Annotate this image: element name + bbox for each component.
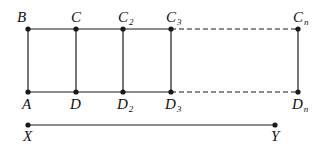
label-D3: D3: [164, 96, 182, 114]
point-Y: [272, 122, 277, 127]
label-C3: C3: [166, 9, 182, 27]
label-Y: Y: [271, 128, 281, 144]
label-C2: C2: [118, 9, 134, 27]
label-D: D: [69, 96, 81, 112]
label-Cn: Cn: [293, 9, 309, 27]
diagram-points: [25, 26, 300, 127]
diagram-svg: BCC2C3CnADD2D3DnXY: [0, 0, 324, 146]
point-C: [73, 26, 78, 31]
point-C2: [120, 26, 125, 31]
point-D: [73, 89, 78, 94]
label-D2: D2: [116, 96, 134, 114]
point-D3: [168, 89, 173, 94]
diagram-lines: [28, 29, 298, 125]
rectangle-sequence-diagram: BCC2C3CnADD2D3DnXY: [0, 0, 324, 146]
point-C3: [168, 26, 173, 31]
label-A: A: [21, 96, 32, 112]
point-B: [25, 26, 30, 31]
label-X: X: [22, 128, 33, 144]
point-X: [25, 122, 30, 127]
point-Dn: [295, 89, 300, 94]
label-B: B: [17, 9, 26, 25]
point-D2: [120, 89, 125, 94]
point-A: [25, 89, 30, 94]
label-C: C: [71, 9, 82, 25]
label-Dn: Dn: [291, 96, 309, 114]
point-Cn: [295, 26, 300, 31]
